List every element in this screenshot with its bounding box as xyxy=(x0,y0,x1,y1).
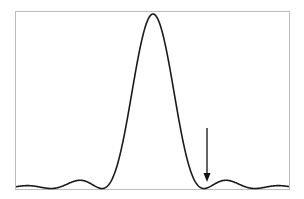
plot-frame xyxy=(16,12,290,190)
intensity-curve xyxy=(16,14,289,189)
arrow-annotation xyxy=(204,128,211,182)
diffraction-chart xyxy=(0,0,304,199)
arrow-down-icon xyxy=(204,173,211,182)
